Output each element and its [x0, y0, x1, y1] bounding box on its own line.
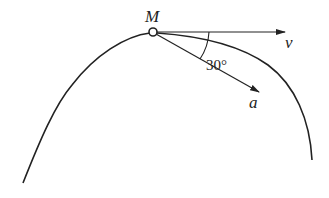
acceleration-label: a: [249, 93, 258, 112]
trajectory-diagram: M v a 30°: [0, 0, 329, 198]
trajectory-curve: [23, 33, 312, 183]
velocity-label: v: [285, 33, 293, 52]
angle-label: 30°: [206, 57, 227, 73]
angle-arc: [200, 32, 209, 59]
point-m-label: M: [144, 7, 160, 26]
point-m-marker: [149, 28, 157, 36]
